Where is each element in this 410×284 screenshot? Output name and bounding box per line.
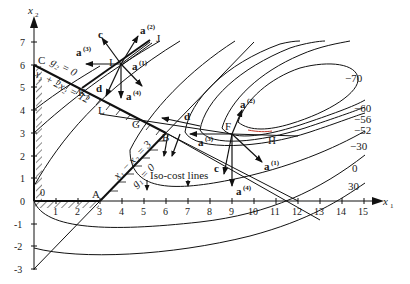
svg-text:d: d: [96, 82, 102, 94]
svg-text:12: 12: [292, 206, 302, 217]
svg-text:d: d: [184, 110, 190, 122]
svg-text:c: c: [214, 162, 219, 174]
contour-level-labels: −70 −60 −56 −52 −30 0 30: [345, 72, 372, 192]
svg-text:-3: -3: [14, 264, 22, 275]
optimization-diagram: 1 2 3 4 5 6 7 8 9 10 11 12 13 14 15 -3 -…: [0, 0, 410, 284]
svg-text:2: 2: [20, 151, 25, 162]
y-tick-labels: -3 -2 -1 0 1 2 3 4 5 6 7: [14, 37, 25, 275]
svg-text:a: a: [76, 46, 82, 58]
svg-text:1: 1: [390, 202, 394, 210]
svg-text:14: 14: [336, 206, 346, 217]
svg-text:15: 15: [358, 206, 368, 217]
axes: [30, 16, 384, 270]
point-A: A: [92, 188, 100, 200]
axis-labels: x 1 x 2 0: [27, 4, 394, 210]
svg-text:(2): (2): [147, 23, 156, 31]
svg-text:0: 0: [352, 162, 358, 174]
svg-text:(3): (3): [205, 135, 214, 143]
svg-text:3: 3: [20, 128, 25, 139]
svg-text:(3): (3): [83, 45, 92, 53]
point-G: G: [132, 118, 140, 130]
point-B: B: [162, 131, 169, 143]
svg-text:x: x: [27, 4, 33, 16]
d-vector-icon: [162, 118, 200, 126]
svg-text:9: 9: [229, 206, 234, 217]
svg-text:4: 4: [119, 206, 124, 217]
point-J: J: [156, 32, 161, 44]
iso-cost-annotation: Iso-cost lines: [150, 169, 208, 181]
svg-text:2: 2: [35, 11, 39, 19]
svg-text:x: x: [382, 195, 388, 207]
svg-text:5: 5: [141, 206, 146, 217]
svg-text:7: 7: [20, 37, 25, 48]
svg-text:−70: −70: [345, 72, 363, 84]
x-tick-labels: 1 2 3 4 5 6 7 8 9 10 11 12 13 14 15: [53, 206, 368, 217]
svg-text:8: 8: [207, 206, 212, 217]
svg-text:(4): (4): [243, 184, 252, 192]
svg-text:(4): (4): [133, 89, 142, 97]
svg-text:(1): (1): [139, 59, 148, 67]
svg-text:a: a: [236, 185, 242, 197]
point-C: C: [38, 54, 45, 66]
point-H: H: [268, 134, 276, 146]
svg-text:−52: −52: [354, 124, 371, 136]
svg-text:6: 6: [163, 206, 168, 217]
svg-text:5: 5: [20, 82, 25, 93]
svg-text:7: 7: [185, 206, 190, 217]
highlight-segment: [248, 130, 272, 132]
svg-text:0: 0: [20, 196, 25, 207]
svg-text:4: 4: [20, 105, 25, 116]
point-F: F: [225, 120, 231, 132]
svg-text:13: 13: [314, 206, 324, 217]
svg-text:-2: -2: [14, 241, 22, 252]
a1-vector-icon: [232, 134, 262, 162]
svg-text:a: a: [264, 160, 270, 172]
svg-text:−30: −30: [350, 140, 368, 152]
svg-text:a: a: [140, 24, 146, 36]
svg-text:-1: -1: [14, 219, 22, 230]
svg-text:6: 6: [20, 60, 25, 71]
svg-text:(2): (2): [247, 97, 256, 105]
svg-text:c: c: [98, 28, 103, 40]
svg-text:a: a: [240, 98, 246, 110]
svg-text:a: a: [198, 136, 204, 148]
svg-text:30: 30: [348, 180, 360, 192]
svg-text:(1): (1): [271, 159, 280, 167]
point-L: L: [98, 104, 105, 116]
svg-text:11: 11: [270, 206, 280, 217]
svg-text:a: a: [132, 60, 138, 72]
svg-text:1: 1: [20, 173, 25, 184]
point-I: I: [109, 56, 113, 68]
a2-vector-icon: [232, 110, 242, 134]
svg-text:a: a: [126, 90, 132, 102]
